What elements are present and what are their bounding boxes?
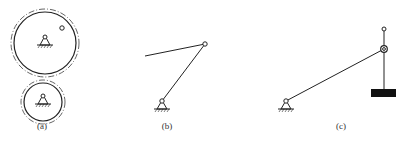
- panel-c-label: (c): [336, 121, 346, 131]
- small-gear-pitch-circle: [21, 80, 65, 124]
- crank-link: [286, 49, 384, 101]
- panel-b-label: (b): [162, 121, 173, 131]
- ground-pivot-icon: [154, 99, 170, 112]
- weight-block: [371, 89, 396, 97]
- slider-joint-inner: [383, 48, 386, 51]
- large-gear-pin: [60, 26, 64, 30]
- panel-c: [278, 27, 396, 112]
- ground-pivot-icon: [37, 35, 53, 48]
- link-lower: [162, 44, 205, 101]
- large-gear-circle: [14, 12, 76, 74]
- rod-top-pin: [382, 27, 386, 31]
- link-upper: [145, 44, 205, 56]
- mechanism-diagram: [0, 0, 410, 147]
- panel-a-label: (a): [37, 121, 47, 131]
- ground-pivot-icon: [278, 99, 294, 112]
- large-gear-pitch-circle: [11, 9, 79, 77]
- panel-a: [11, 9, 79, 124]
- joint-pin: [203, 42, 207, 46]
- ground-pivot-icon: [35, 94, 51, 107]
- small-gear-circle: [24, 83, 62, 121]
- panel-b: [145, 42, 207, 112]
